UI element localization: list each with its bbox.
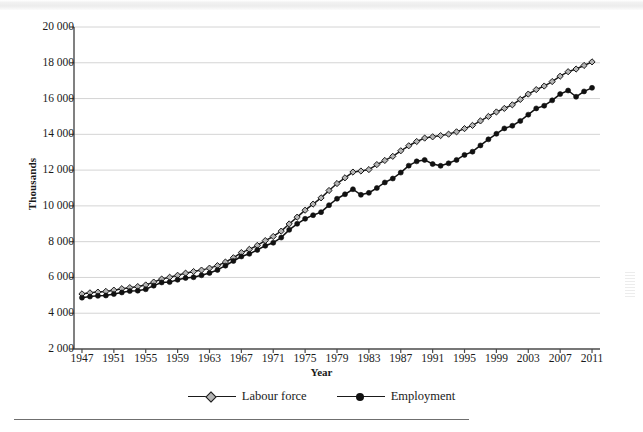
- legend-item-employment[interactable]: Employment: [337, 389, 456, 404]
- filled-circle-icon: [356, 393, 364, 401]
- legend-item-labour-force[interactable]: Labour force: [188, 389, 307, 404]
- series-markers-labour-force: [79, 59, 595, 297]
- chart-legend: Labour force Employment: [0, 389, 643, 404]
- y-tick-label: 8 000: [20, 236, 74, 248]
- legend-label-employment: Employment: [391, 389, 456, 404]
- y-tick-label: 20 000: [20, 21, 74, 33]
- legend-key-employment: [337, 391, 385, 403]
- page-root: Thousands 2 0004 0006 0008 00010 00012 0…: [0, 0, 643, 432]
- legend-key-labour-force: [188, 391, 236, 403]
- series-markers-employment: [79, 85, 594, 300]
- y-tick-label: 14 000: [20, 128, 74, 140]
- footer-rule: [14, 419, 469, 420]
- y-tick-label: 12 000: [20, 164, 74, 176]
- series-line-employment: [82, 88, 592, 298]
- x-tick-label: 2011: [572, 352, 612, 364]
- legend-label-labour-force: Labour force: [242, 389, 307, 404]
- line-chart: Thousands 2 0004 0006 0008 00010 00012 0…: [0, 0, 643, 432]
- open-diamond-icon: [205, 391, 216, 402]
- y-tick-label: 10 000: [20, 200, 74, 212]
- y-tick-label: 16 000: [20, 93, 74, 105]
- y-tick-label: 18 000: [20, 57, 74, 69]
- y-tick-label: 4 000: [20, 307, 74, 319]
- x-axis-title: Year: [0, 366, 643, 378]
- y-tick-label: 6 000: [20, 271, 74, 283]
- series-line-labour-force: [82, 62, 592, 294]
